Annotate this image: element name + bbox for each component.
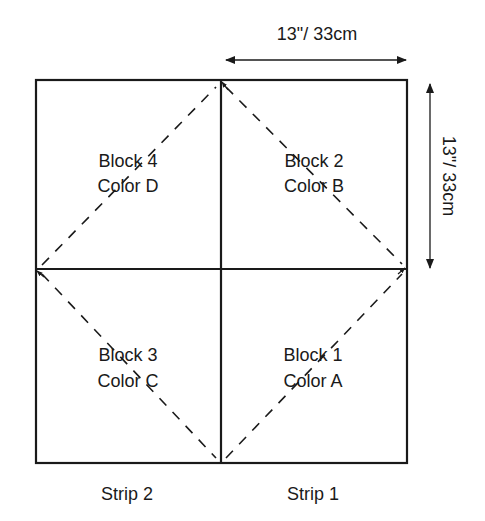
block-3: Block 3 Color C bbox=[97, 345, 158, 391]
block-4: Block 4 Color D bbox=[97, 151, 158, 196]
block-2: Block 2 Color B bbox=[284, 151, 344, 196]
block-color: Color B bbox=[284, 176, 344, 196]
block-color: Color C bbox=[97, 371, 158, 391]
block-name: Block 2 bbox=[284, 151, 343, 171]
block-color: Color D bbox=[97, 176, 158, 196]
strip-2-label: Strip 2 bbox=[101, 484, 153, 504]
quilt-diagram: 13"/ 33cm 13"/ 33cm Block 4 Color D Bloc… bbox=[0, 0, 485, 521]
height-dimension: 13"/ 33cm bbox=[430, 84, 459, 268]
block-name: Block 1 bbox=[283, 345, 342, 365]
block-name: Block 4 bbox=[98, 151, 157, 171]
block-name: Block 3 bbox=[98, 345, 157, 365]
block-color: Color A bbox=[283, 371, 342, 391]
diagonal-block-1 bbox=[226, 274, 402, 458]
diagonal-block-3 bbox=[42, 274, 216, 458]
width-label: 13"/ 33cm bbox=[277, 24, 357, 44]
width-dimension: 13"/ 33cm bbox=[226, 24, 406, 60]
strip-1-label: Strip 1 bbox=[287, 484, 339, 504]
height-label: 13"/ 33cm bbox=[439, 136, 459, 216]
corner-arrow-icon bbox=[222, 82, 228, 90]
quilt-grid bbox=[36, 80, 407, 463]
block-1: Block 1 Color A bbox=[283, 345, 342, 391]
